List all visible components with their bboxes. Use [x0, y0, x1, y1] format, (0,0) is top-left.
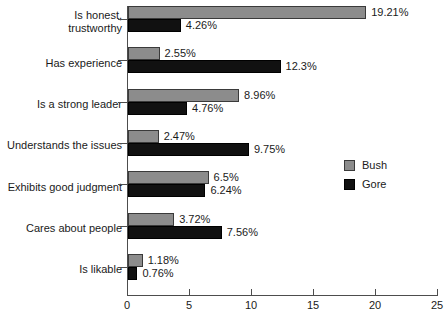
category-label: Exhibits good judgment	[0, 181, 122, 194]
category-tick	[118, 102, 127, 103]
axis-tick-label: 5	[186, 299, 192, 311]
axis-tick	[437, 289, 438, 296]
bar-bush[interactable]	[128, 254, 143, 267]
bar-gore[interactable]	[128, 102, 187, 115]
legend-item-gore[interactable]: Gore	[344, 176, 387, 192]
bar-value-bush: 8.96%	[244, 89, 275, 102]
bar-value-gore: 9.75%	[254, 143, 285, 156]
category-tick	[118, 267, 127, 268]
bar-value-gore: 6.24%	[210, 184, 241, 197]
category-label: Is a strong leader	[0, 98, 122, 111]
category-tick	[118, 60, 127, 61]
category-label: Cares about people	[0, 222, 122, 235]
bar-value-bush: 6.5%	[214, 171, 239, 184]
category-label: Understands the issues	[0, 139, 122, 152]
bush-swatch-icon	[344, 160, 355, 171]
chart-row: Is a strong leader8.96%4.76%	[0, 89, 448, 123]
category-label: Is likable	[0, 263, 122, 276]
axis-tick	[189, 289, 190, 296]
legend-label-bush: Bush	[362, 159, 387, 171]
bar-value-gore: 4.76%	[192, 102, 223, 115]
bar-value-bush: 19.21%	[371, 6, 408, 19]
bar-bush[interactable]	[128, 171, 209, 184]
bar-gore[interactable]	[128, 143, 249, 156]
bar-value-gore: 4.26%	[186, 19, 217, 32]
bar-bush[interactable]	[128, 89, 239, 102]
bar-gore[interactable]	[128, 267, 137, 280]
bar-bush[interactable]	[128, 47, 160, 60]
legend-item-bush[interactable]: Bush	[344, 157, 387, 173]
category-tick	[118, 184, 127, 185]
bar-value-gore: 12.3%	[286, 60, 317, 73]
axis-tick	[375, 289, 376, 296]
legend-label-gore: Gore	[362, 178, 386, 190]
category-tick	[118, 19, 127, 20]
axis-tick-label: 10	[245, 299, 257, 311]
axis-tick-label: 0	[124, 299, 130, 311]
bar-value-gore: 7.56%	[227, 226, 258, 239]
bar-gore[interactable]	[128, 60, 281, 73]
chart-row: Is likable1.18%0.76%	[0, 254, 448, 288]
axis-tick-label: 15	[307, 299, 319, 311]
bar-value-bush: 1.18%	[148, 254, 179, 267]
bar-gore[interactable]	[128, 226, 222, 239]
axis-tick	[251, 289, 252, 296]
bar-bush[interactable]	[128, 6, 366, 19]
chart-row: Is honest,trustworthy19.21%4.26%	[0, 6, 448, 40]
bar-value-bush: 2.47%	[164, 130, 195, 143]
chart-legend: Bush Gore	[344, 157, 387, 195]
axis-tick-label: 25	[431, 299, 443, 311]
category-label: Has experience	[0, 57, 122, 70]
bar-chart: 0510152025 Is honest,trustworthy19.21%4.…	[0, 0, 448, 324]
bar-gore[interactable]	[128, 184, 205, 197]
bar-value-gore: 0.76%	[142, 267, 173, 280]
axis-tick-label: 20	[369, 299, 381, 311]
bar-value-bush: 3.72%	[179, 213, 210, 226]
axis-tick	[127, 289, 128, 296]
bar-value-bush: 2.55%	[165, 47, 196, 60]
value-axis-line	[127, 295, 438, 296]
chart-row: Cares about people3.72%7.56%	[0, 213, 448, 247]
bar-bush[interactable]	[128, 213, 174, 226]
bar-bush[interactable]	[128, 130, 159, 143]
bar-gore[interactable]	[128, 19, 181, 32]
category-tick	[118, 143, 127, 144]
chart-row: Has experience2.55%12.3%	[0, 47, 448, 81]
category-tick	[118, 226, 127, 227]
axis-tick	[313, 289, 314, 296]
gore-swatch-icon	[344, 179, 355, 190]
category-label: Is honest,trustworthy	[0, 9, 122, 35]
